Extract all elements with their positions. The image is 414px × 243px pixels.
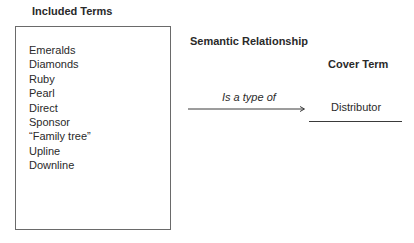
- included-terms-heading: Included Terms: [32, 5, 112, 17]
- included-terms-list: Emeralds Diamonds Ruby Pearl Direct Spon…: [29, 43, 91, 173]
- term-item: Emeralds: [29, 43, 91, 57]
- cover-term-value: Distributor: [331, 101, 381, 113]
- included-terms-box: Emeralds Diamonds Ruby Pearl Direct Spon…: [15, 26, 171, 230]
- semantic-relationship-heading: Semantic Relationship: [190, 35, 308, 47]
- term-item: “Family tree”: [29, 129, 91, 143]
- relationship-label: Is a type of: [222, 91, 276, 103]
- term-item: Downline: [29, 158, 91, 172]
- cover-term-underline: [309, 121, 402, 122]
- cover-term-heading: Cover Term: [328, 58, 388, 70]
- term-item: Pearl: [29, 86, 91, 100]
- term-item: Ruby: [29, 72, 91, 86]
- term-item: Sponsor: [29, 115, 91, 129]
- term-item: Direct: [29, 101, 91, 115]
- term-item: Diamonds: [29, 57, 91, 71]
- term-item: Upline: [29, 144, 91, 158]
- right-arrow-icon: [188, 104, 308, 114]
